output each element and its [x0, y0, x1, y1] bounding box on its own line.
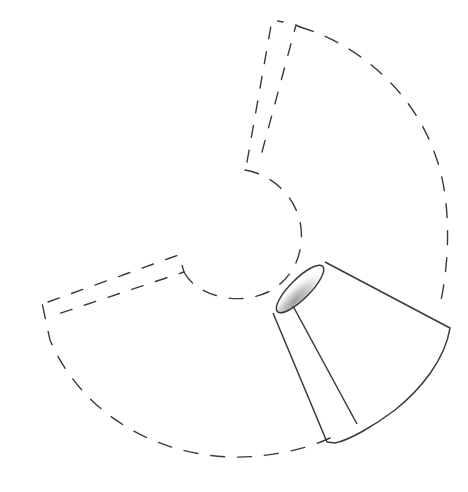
top-seam-tab — [247, 20, 300, 162]
outer-arc — [42, 27, 448, 457]
lampshade-top-opening — [270, 259, 329, 318]
left-seam-tab — [48, 255, 184, 315]
lampshade-seam — [293, 306, 357, 424]
lampshade-pattern-diagram — [0, 0, 468, 492]
assembled-lampshade — [270, 259, 450, 443]
inner-arc — [184, 170, 301, 299]
diagram-canvas — [0, 0, 468, 492]
